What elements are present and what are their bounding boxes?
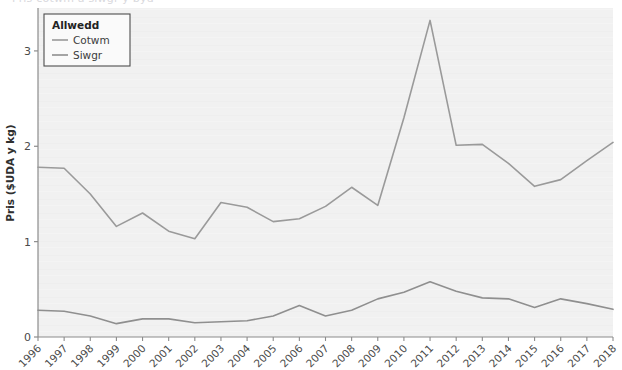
legend-title: Allwedd — [52, 19, 99, 31]
line-chart-svg: 0123 19961997199819992000200120022003200… — [0, 0, 622, 370]
y-tick-label: 0 — [24, 331, 31, 344]
chart-legend[interactable]: AllweddCotwmSiwgr — [44, 14, 130, 66]
y-axis-label: Pris ($UDA y kg) — [4, 124, 16, 221]
cropped-title: Pris cotwm a siwgr y byd — [0, 0, 622, 7]
chart-figure: Pris cotwm a siwgr y byd 0123 1996199719… — [0, 0, 622, 370]
y-tick-label: 2 — [24, 140, 31, 153]
y-tick-label: 1 — [24, 236, 31, 249]
legend-label-siwgr[interactable]: Siwgr — [73, 49, 103, 61]
legend-label-cotwm[interactable]: Cotwm — [73, 34, 110, 46]
y-tick-label: 3 — [24, 45, 31, 58]
